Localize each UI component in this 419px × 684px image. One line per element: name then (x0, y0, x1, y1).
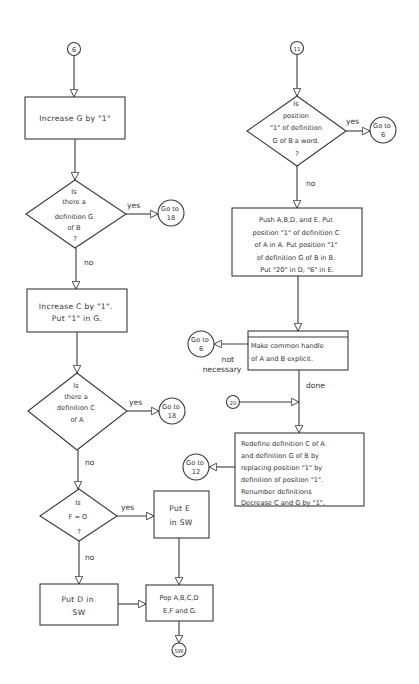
no-label: no (85, 458, 95, 467)
connector-label: 11 (294, 46, 301, 52)
put-d-box: Put D in SW (40, 584, 118, 625)
decision-position-1-word: Is position "1" of definition G of B a w… (247, 96, 346, 166)
entry-connector-11: 11 (291, 42, 304, 55)
no-label: no (306, 179, 316, 188)
decision-definition-g-of-b: Is there a definition G of B ? (26, 180, 126, 248)
push-box: Push A,B,D, and E. Put position "1" of d… (232, 208, 362, 276)
yes-label: yes (127, 201, 140, 210)
no-label: no (84, 258, 94, 267)
connector-label: 20 (230, 400, 237, 406)
flowchart: 6 Increase G by "1" Is there a definitio… (0, 0, 419, 684)
yes-label: yes (121, 503, 134, 512)
yes-label: yes (129, 398, 142, 407)
left-flow: 6 Increase G by "1" Is there a definitio… (25, 43, 213, 658)
connector-label: 6 (72, 46, 76, 54)
goto-6-connector: Go to 6 (370, 117, 396, 143)
join-connector-20: 20 (227, 396, 240, 409)
make-common-handle-box: Make common handle of A and B explicit. (248, 331, 348, 370)
yes-label: yes (346, 117, 359, 126)
right-flow: 11 Is position "1" of definition G of B … (183, 42, 396, 508)
decision-definition-c-of-a: Is there a definition C of A (28, 373, 127, 450)
entry-connector-6: 6 (68, 43, 81, 56)
put-e-box: Put E in SW (154, 491, 209, 538)
goto-18-connector: Go to 18 (158, 200, 184, 226)
done-label: done (306, 381, 325, 390)
goto-18-connector: Go to 18 (159, 398, 185, 424)
not-necessary-label: not necessary (203, 355, 242, 374)
connector-label: SW (175, 648, 184, 654)
box-text: Increase G by "1" (39, 114, 111, 123)
exit-connector-sw: SW (172, 643, 186, 657)
no-label: no (85, 553, 95, 562)
increase-c-box: Increase C by "1". Put "1" in G. (27, 289, 127, 332)
pop-box: Pop A,B,C,D E,F and G. (146, 585, 213, 621)
decision-f-equals-zero: Is F = O ? (40, 489, 117, 541)
goto-12-connector: Go to 12 (183, 454, 209, 480)
goto-6-connector: Go to 6 (188, 331, 214, 357)
increase-g-box: Increase G by "1" (25, 97, 125, 139)
redefine-box: Redefine definition C of A and definitio… (235, 433, 364, 507)
